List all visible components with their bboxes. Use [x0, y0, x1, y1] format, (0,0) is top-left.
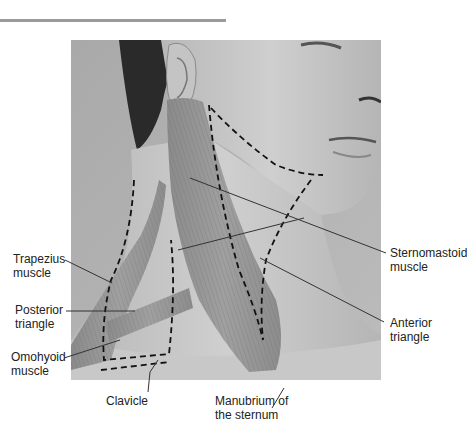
label-omohyoid-muscle: Omohyoid muscle [11, 350, 66, 378]
label-sternomastoid-muscle: Sternomastoid muscle [390, 246, 467, 274]
label-clavicle: Clavicle [106, 394, 148, 408]
label-posterior-triangle: Posterior triangle [15, 303, 63, 331]
label-anterior-triangle: Anterior triangle [390, 316, 432, 344]
label-manubrium-of-sternum: Manubrium of the sternum [215, 394, 288, 422]
neck-anatomy-photo [71, 40, 381, 380]
label-trapezius-muscle: Trapezius muscle [13, 252, 65, 280]
header-rule [0, 19, 226, 22]
